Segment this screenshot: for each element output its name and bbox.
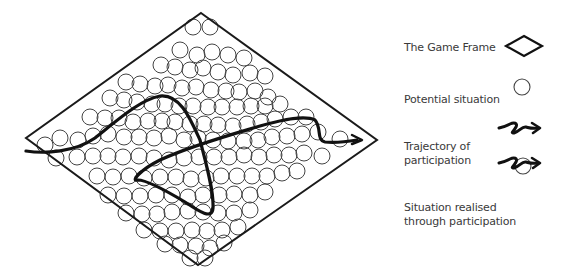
potential-situation-circle: [195, 187, 211, 203]
potential-situation-circle: [147, 78, 163, 94]
potential-situation-circle: [167, 59, 183, 75]
squiggle-arrow-circle-icon: [496, 152, 546, 178]
legend-label-potential-situation: Potential situation: [404, 93, 500, 107]
potential-situation-circle: [102, 90, 118, 106]
game-frame-diagram: [0, 0, 390, 279]
potential-situation-circle: [210, 64, 226, 80]
potential-situation-circle: [172, 42, 188, 58]
potential-situation-circle: [204, 44, 220, 60]
potential-situation-circle: [100, 148, 116, 164]
potential-situation-circle: [153, 57, 169, 73]
potential-situation-circle: [115, 149, 131, 165]
potential-situation-circle: [279, 128, 295, 144]
potential-situation-circle: [132, 76, 148, 92]
potential-situation-circle: [251, 149, 267, 165]
potential-situation-circle: [131, 129, 147, 145]
potential-situation-circle: [281, 147, 297, 163]
potential-situation-circle: [168, 169, 184, 185]
potential-situation-circle: [69, 149, 85, 165]
potential-situation-circle: [260, 89, 276, 105]
potential-situation-circle: [242, 187, 258, 203]
potential-situation-circle: [89, 168, 105, 184]
potential-situation-circle: [225, 67, 241, 83]
potential-situation-circle: [274, 165, 290, 181]
potential-situation-circle: [160, 77, 176, 93]
potential-situation-circle: [105, 169, 121, 185]
legend-label-game-frame: The Game Frame: [404, 41, 496, 55]
potential-situation-circle: [164, 204, 180, 220]
potential-situation-circle: [184, 222, 200, 238]
potential-situation-circle: [82, 109, 98, 125]
potential-situation-circle: [52, 130, 68, 146]
potential-situation-circle: [264, 129, 280, 145]
potential-situation-circle: [121, 168, 137, 184]
potential-situation-circle: [125, 114, 141, 130]
potential-situation-circle: [189, 47, 205, 63]
potential-situation-circle: [242, 202, 258, 218]
potential-situation-circle: [188, 238, 204, 254]
potential-situation-circle: [294, 126, 310, 142]
potential-situation-circle: [289, 163, 305, 179]
potential-situation-circle: [202, 19, 218, 35]
potential-situation-circle: [229, 168, 245, 184]
potential-situation-circle: [146, 130, 162, 146]
game-frame-diamond: [26, 13, 377, 265]
potential-situation-circle: [161, 128, 177, 144]
potential-situation-circle: [116, 129, 132, 145]
potential-situation-circle: [296, 145, 312, 161]
potential-situation-circle: [183, 171, 199, 187]
potential-situation-circle: [231, 84, 247, 100]
legend-label-trajectory: Trajectory of participation: [404, 140, 471, 168]
potential-situation-circle: [266, 147, 282, 163]
potential-situation-circle: [116, 188, 132, 204]
potential-situation-circle: [85, 148, 101, 164]
potential-situation-circle: [168, 223, 184, 239]
potential-situation-circle: [206, 149, 222, 165]
potential-situation-circle: [203, 82, 219, 98]
potential-situation-circle: [314, 148, 330, 164]
legend-label-situation-realised: Situation realised through participation: [404, 201, 516, 229]
potential-situation-circle: [242, 65, 258, 81]
potential-situation-circle: [199, 223, 215, 239]
potential-situation-circle: [131, 148, 147, 164]
potential-situation-circle: [247, 83, 263, 99]
potential-situation-circle: [220, 47, 236, 63]
potential-situation-circle: [244, 168, 260, 184]
potential-situation-circle: [185, 19, 201, 35]
potential-situation-circles: [37, 19, 348, 266]
diamond-icon: [503, 33, 545, 59]
potential-situation-circle: [221, 149, 237, 165]
potential-situation-circle: [218, 83, 234, 99]
potential-situation-circle: [149, 206, 165, 222]
potential-situation-circle: [257, 184, 273, 200]
potential-situation-circle: [213, 168, 229, 184]
potential-situation-circle: [152, 169, 168, 185]
potential-situation-circle: [176, 132, 192, 148]
potential-situation-circle: [226, 205, 242, 221]
potential-situation-circle: [226, 186, 242, 202]
potential-situation-circle: [118, 74, 134, 90]
potential-situation-circle: [332, 131, 348, 147]
potential-situation-circle: [259, 168, 275, 184]
potential-situation-circle: [132, 188, 148, 204]
squiggle-arrow-icon: [496, 118, 546, 140]
potential-situation-circle: [257, 68, 273, 84]
potential-situation-circle: [272, 96, 288, 112]
circle-icon: [512, 77, 532, 97]
potential-situation-circle: [236, 50, 252, 66]
